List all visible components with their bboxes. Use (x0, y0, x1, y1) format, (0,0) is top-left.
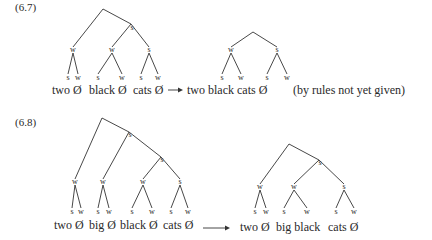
tree-branch (149, 53, 158, 74)
tree-branch (294, 190, 307, 208)
weak-node: w (284, 74, 290, 82)
weak-node: w (100, 178, 106, 186)
strong-node: s (139, 74, 142, 82)
arrow-head-icon (225, 226, 230, 231)
strong-node: s (282, 208, 285, 216)
weak-node: w (72, 178, 78, 186)
strong-node: s (253, 208, 256, 216)
strong-node: s (147, 46, 150, 54)
metrical-tree-figure: (6.7) (by rules not yet given) (6.8) sww… (0, 0, 432, 240)
weak-node: w (78, 208, 84, 216)
tree-branch (129, 132, 161, 157)
tree-branch (75, 185, 81, 208)
tree-branch (112, 24, 131, 47)
tree-branch (112, 53, 122, 74)
weak-node: w (106, 208, 112, 216)
tree-branch (260, 144, 289, 184)
word-label: black Ø (89, 84, 127, 96)
word-label: black Ø (120, 219, 158, 231)
tree-branch (68, 53, 73, 74)
example-label-6-8: (6.8) (15, 117, 36, 128)
tree-branch (103, 132, 129, 179)
tree-branch (277, 53, 287, 74)
note-by-rules-not-yet-given: (by rules not yet given) (293, 84, 405, 96)
weak-node: w (140, 178, 146, 186)
tree-branch (336, 190, 344, 208)
example-label-6-7: (6.7) (15, 2, 36, 13)
tree-branch (98, 185, 103, 208)
weak-node: w (109, 46, 115, 54)
tree-branch (131, 24, 149, 47)
tree-branch (72, 185, 75, 208)
weak-node: w (155, 74, 161, 82)
strong-node: s (130, 208, 133, 216)
tree-branch (161, 157, 180, 179)
tree-branch (75, 118, 102, 179)
weak-node: w (257, 183, 263, 191)
tree-branch (231, 53, 241, 74)
word-label: big Ø (89, 219, 116, 231)
strong-node: s (178, 178, 181, 186)
weak-node: w (75, 74, 81, 82)
tree-branch (284, 190, 294, 208)
tree-branch (260, 190, 266, 208)
strong-node: s (128, 131, 131, 139)
tree-branch (171, 185, 180, 208)
tree-branch (253, 32, 277, 47)
tree-branch (294, 160, 319, 184)
word-label: cats Ø (133, 84, 163, 96)
tree-branch (267, 53, 277, 74)
tree-branch (255, 190, 260, 208)
word-label: two Ø (240, 221, 270, 233)
weak-node: w (291, 183, 297, 191)
strong-node: s (96, 208, 99, 216)
tree-edges (0, 0, 432, 240)
tree-branch (132, 185, 143, 208)
word-label: two Ø (54, 219, 84, 231)
weak-node: w (228, 46, 234, 54)
strong-node: s (265, 74, 268, 82)
strong-node: s (318, 159, 321, 167)
strong-node: s (96, 74, 99, 82)
tree-branch (103, 185, 109, 208)
tree-branch (98, 53, 112, 74)
weak-node: w (263, 208, 269, 216)
tree-branch (102, 118, 129, 132)
word-label: two black cats Ø (187, 84, 267, 96)
word-label: cats Ø (328, 221, 358, 233)
word-label: cats Ø (163, 219, 193, 231)
tree-branch (103, 9, 131, 24)
tree-branch (344, 190, 354, 208)
weak-node: w (238, 74, 244, 82)
tree-branch (73, 53, 78, 74)
tree-branch (143, 157, 161, 179)
tree-branch (180, 185, 188, 208)
strong-node: s (66, 74, 69, 82)
tree-branch (222, 53, 231, 74)
strong-node: s (130, 24, 133, 32)
weak-node: w (149, 208, 155, 216)
strong-node: s (342, 183, 345, 191)
strong-node: s (220, 74, 223, 82)
tree-branch (141, 53, 149, 74)
weak-node: w (119, 74, 125, 82)
word-label: two Ø (52, 84, 82, 96)
word-label: big black (276, 221, 320, 233)
strong-node: s (70, 208, 73, 216)
arrow-head-icon (178, 88, 183, 93)
strong-node: s (169, 208, 172, 216)
weak-node: w (185, 208, 191, 216)
strong-node: s (334, 208, 337, 216)
tree-branch (73, 9, 103, 47)
weak-node: w (351, 208, 357, 216)
strong-node: s (275, 46, 278, 54)
tree-branch (143, 185, 152, 208)
weak-node: w (304, 208, 310, 216)
tree-branch (289, 144, 319, 160)
strong-node: s (160, 156, 163, 164)
weak-node: w (70, 46, 76, 54)
tree-branch (231, 32, 253, 47)
tree-branch (319, 160, 344, 184)
